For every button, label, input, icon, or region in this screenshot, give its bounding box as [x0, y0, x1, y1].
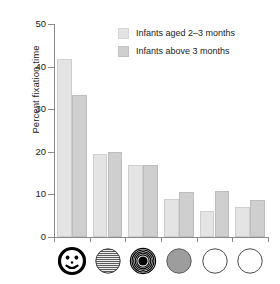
legend-item-series-1: Infants aged 2–3 months [118, 25, 235, 41]
bar-gray-disc-series-2 [179, 192, 194, 237]
chart-legend: Infants aged 2–3 months Infants above 3 … [118, 25, 235, 61]
bar-face-series-1 [57, 59, 72, 237]
x-axis-tick-mark [161, 237, 162, 242]
bar-white-disc-1-series-2 [215, 191, 230, 237]
stripes-icon [91, 245, 125, 277]
legend-item-series-2: Infants above 3 months [118, 43, 235, 59]
legend-label-series-1: Infants aged 2–3 months [136, 28, 235, 38]
white-disc-icon [233, 245, 267, 277]
y-axis-tick: 0 [0, 237, 280, 238]
x-axis-tick-mark [197, 237, 198, 242]
bullseye-icon [126, 245, 160, 277]
bar-white-disc-1-series-1 [200, 211, 215, 237]
y-axis-tick-label: 10 [8, 189, 46, 199]
x-axis-tick-mark [125, 237, 126, 242]
bar-horizontal-stripes-series-1 [93, 154, 108, 237]
bar-face-series-2 [72, 95, 87, 237]
bar-gray-disc-series-1 [164, 199, 179, 237]
legend-swatch-icon [118, 28, 129, 39]
bar-horizontal-stripes-series-2 [108, 152, 123, 237]
y-axis-tick-label: 50 [8, 19, 46, 29]
white-disc-icon [198, 245, 232, 277]
legend-swatch-icon [118, 46, 129, 57]
bar-bullseye-series-1 [128, 165, 143, 237]
x-axis-tick-mark [90, 237, 91, 242]
y-axis-tick-label: 20 [8, 147, 46, 157]
bar-white-disc-2-series-2 [250, 200, 265, 237]
bar-white-disc-2-series-1 [235, 207, 250, 237]
x-axis-stimulus-icons [54, 245, 268, 279]
bar-chart-figure: Percent fixation time 01020304050 Infant… [0, 0, 280, 284]
x-axis-tick-mark [268, 237, 269, 242]
y-axis-tick-label: 40 [8, 62, 46, 72]
bar-bullseye-series-2 [143, 165, 158, 237]
x-axis-tick-mark [232, 237, 233, 242]
face-icon [55, 245, 89, 277]
x-axis-tick-mark [54, 237, 55, 242]
y-axis-tick-label: 30 [8, 104, 46, 114]
legend-label-series-2: Infants above 3 months [136, 46, 230, 56]
gray-disc-icon [162, 245, 196, 277]
y-axis-tick-label: 0 [8, 232, 46, 242]
